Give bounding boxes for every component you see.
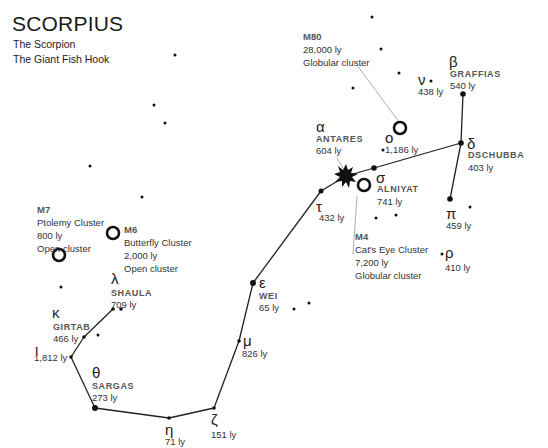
m4-type: Globular cluster: [355, 270, 422, 281]
star-dist-iota: 1,812 ly: [34, 352, 67, 364]
star-dist-omicron: 1,186 ly: [385, 144, 418, 156]
greek-mu: μ: [243, 333, 252, 348]
star-dist-mu: 826 ly: [242, 348, 267, 360]
star-dist-girtab: 466 ly: [53, 333, 78, 345]
greek-delta: δ: [467, 136, 475, 151]
star-dist-alniyat: 741 ly: [377, 196, 402, 208]
greek-omicron: ο: [385, 130, 393, 145]
star-name-wei: WEI: [259, 291, 278, 301]
star-dist-graffias: 540 ly: [450, 80, 475, 92]
m7-common-name: Ptolemy Cluster: [37, 217, 104, 228]
greek-eta: η: [165, 422, 173, 437]
greek-beta: β: [449, 54, 458, 69]
star-dist-nu: 438 ly: [418, 86, 443, 98]
greek-epsilon: ε: [259, 275, 266, 290]
m6-id: M6: [124, 224, 137, 235]
m80-id: M80: [303, 31, 321, 42]
star-dist-rho: 410 ly: [445, 262, 470, 274]
m80-dist: 28,000 ly: [303, 44, 342, 55]
greek-alpha: α: [316, 119, 325, 134]
m6-common-name: Butterfly Cluster: [124, 237, 192, 248]
star-name-shaula: SHAULA: [111, 288, 152, 298]
m4-common-name: Cat's Eye Cluster: [355, 244, 428, 255]
greek-pi: π: [446, 206, 456, 221]
greek-nu: ν: [418, 72, 426, 87]
m80-type: Globular cluster: [303, 57, 370, 68]
m6-label: M6 Butterfly Cluster 2,000 ly Open clust…: [124, 223, 192, 275]
m7-dist: 800 ly: [37, 230, 62, 241]
star-dist-sargas: 273 ly: [92, 392, 117, 404]
m4-label: M4 Cat's Eye Cluster 7,200 ly Globular c…: [355, 230, 428, 282]
star-dist-tau: 432 ly: [319, 212, 344, 224]
m4-id: M4: [355, 231, 368, 242]
star-dist-antares: 604 ly: [316, 145, 341, 157]
star-dist-dschubba: 403 ly: [468, 162, 493, 174]
star-name-alniyat: ALNIYAT: [377, 184, 419, 194]
pointer-lines: [337, 65, 399, 254]
m80-label: M80 28,000 ly Globular cluster: [303, 30, 370, 69]
star-name-antares: ANTARES: [316, 134, 363, 144]
star-name-girtab: GIRTAB: [53, 322, 90, 332]
m7-label: M7 Ptolemy Cluster 800 ly Open cluster: [37, 203, 104, 255]
greek-kappa: κ: [52, 305, 60, 320]
star-name-graffias: GRAFFIAS: [450, 69, 501, 79]
greek-sigma: σ: [376, 170, 385, 185]
greek-lambda: λ: [111, 271, 119, 286]
star-dist-shaula: 709 ly: [111, 299, 136, 311]
m6-dist: 2,000 ly: [124, 250, 157, 261]
star-name-sargas: SARGAS: [92, 381, 134, 391]
m4-dist: 7,200 ly: [355, 257, 388, 268]
star-dist-zeta: 151 ly: [211, 429, 236, 441]
star-dist-wei: 65 ly: [259, 302, 279, 314]
star-name-dschubba: DSCHUBBA: [468, 150, 524, 160]
m7-id: M7: [37, 204, 50, 215]
greek-theta: θ: [92, 365, 100, 380]
antares-star-icon: [334, 164, 358, 188]
greek-zeta: ζ: [211, 412, 218, 427]
greek-rho: ρ: [445, 245, 454, 260]
star-dist-eta: 71 ly: [165, 436, 185, 448]
m7-type: Open cluster: [37, 243, 91, 254]
star-dist-pi: 459 ly: [446, 220, 471, 232]
m6-type: Open cluster: [124, 263, 178, 274]
